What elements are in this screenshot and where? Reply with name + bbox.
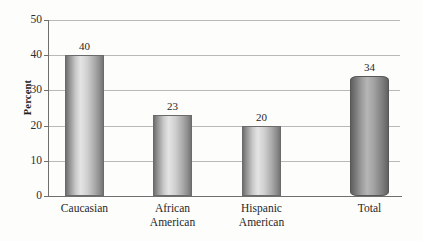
y-axis-label-50: 50 [18, 14, 42, 26]
plot-area: Percent 50 40 30 20 10 0 40 23 20 [0, 0, 423, 241]
y-axis-line [48, 20, 49, 197]
bar-value-total: 34 [344, 62, 395, 73]
y-tick-30 [44, 90, 49, 91]
bar-african-american [153, 115, 192, 196]
x-axis-label-african-american: African American [132, 202, 213, 229]
y-axis-label-0: 0 [18, 190, 42, 202]
bar-caucasian [65, 55, 104, 196]
chart-figure: Percent 50 40 30 20 10 0 40 23 20 [0, 0, 423, 241]
gridline-50 [48, 20, 400, 21]
y-tick-20 [44, 126, 49, 127]
x-axis-baseline [46, 196, 402, 197]
x-axis-label-total: Total [329, 202, 410, 216]
bar-value-caucasian: 40 [59, 41, 110, 52]
x-axis-label-caucasian-line1: Caucasian [44, 202, 125, 216]
y-tick-0 [44, 196, 49, 197]
bar-value-african-american: 23 [147, 101, 198, 112]
x-axis-label-hispanic-american-line1: Hispanic [221, 202, 302, 216]
y-axis-label-40: 40 [18, 49, 42, 61]
y-axis-label-10: 10 [18, 155, 42, 167]
bar-total [350, 76, 389, 196]
x-axis-label-hispanic-american: Hispanic American [221, 202, 302, 229]
x-axis-label-hispanic-american-line2: American [221, 216, 302, 230]
y-tick-40 [44, 55, 49, 56]
y-axis-label-30: 30 [18, 84, 42, 96]
x-axis-label-caucasian: Caucasian [44, 202, 125, 216]
bar-value-hispanic-american: 20 [236, 112, 287, 123]
x-axis-label-total-line1: Total [329, 202, 410, 216]
y-tick-50 [44, 20, 49, 21]
y-axis-label-20: 20 [18, 120, 42, 132]
x-axis-label-african-american-line1: African [132, 202, 213, 216]
bar-hispanic-american [242, 126, 281, 196]
x-axis-label-african-american-line2: American [132, 216, 213, 230]
y-tick-10 [44, 161, 49, 162]
